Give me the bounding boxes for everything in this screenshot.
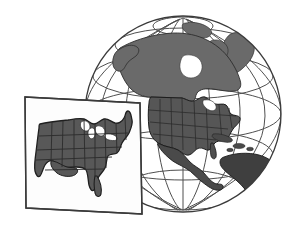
hispaniola-shape [233, 143, 245, 148]
puerto-rico-shape [247, 147, 254, 151]
jamaica-shape [227, 148, 233, 151]
hudson-bay-shape [180, 55, 202, 78]
illustration-canvas: North America globe with United States i… [0, 0, 294, 228]
united-states-inset-panel [25, 97, 142, 214]
north-america-globe-illustration: North America globe with United States i… [0, 0, 294, 228]
lake-michigan-shape [88, 128, 95, 139]
